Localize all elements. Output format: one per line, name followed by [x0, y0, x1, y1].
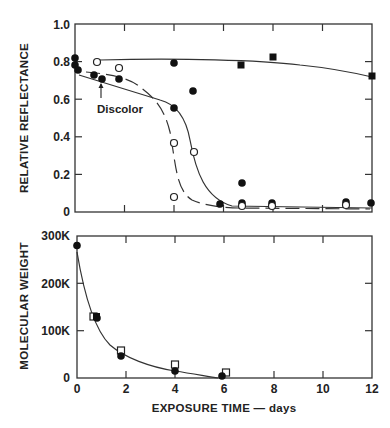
- xtick-12: 12: [365, 382, 379, 396]
- xtick-6: 6: [221, 382, 228, 396]
- filled-square-fit-curve: [100, 59, 372, 77]
- top-filled-square-markers: [238, 54, 376, 80]
- bottom-ytick-100k: 100K: [41, 324, 70, 338]
- top-plot-frame: [75, 24, 372, 212]
- bottom-filled-circle-markers: [73, 242, 226, 380]
- marker-filled-square: [270, 54, 277, 61]
- open-circle-fit-curve: [86, 72, 370, 209]
- top-ytick-0.2: 0.2: [53, 168, 70, 182]
- filled-circle-fit-curve: [79, 75, 372, 208]
- bottom-ytick-200k: 200K: [41, 277, 70, 291]
- top-ytick-0.6: 0.6: [53, 93, 70, 107]
- marker-filled-square: [238, 62, 245, 69]
- xtick-0: 0: [74, 382, 81, 396]
- x-axis-label: EXPOSURE TIME — days: [152, 402, 297, 414]
- bottom-y-tick-labels: 0 100K 200K 300K: [41, 229, 70, 385]
- xtick-8: 8: [271, 382, 278, 396]
- top-ytick-0: 0: [63, 205, 70, 219]
- bottom-y-axis-label: MOLECULAR WEIGHT: [18, 242, 30, 369]
- top-ytick-0.4: 0.4: [53, 130, 70, 144]
- top-y-axis-label: RELATIVE REFLECTANCE: [18, 43, 30, 193]
- bottom-ytick-0: 0: [63, 371, 70, 385]
- top-ytick-0.8: 0.8: [53, 55, 70, 69]
- arrow-up-icon: [99, 83, 104, 88]
- top-filled-circle-markers: [71, 54, 375, 208]
- top-plot: 0 0.2 0.4 0.6 0.8 1.0 RELATIVE REFLECTAN…: [18, 18, 376, 220]
- bottom-ytick-300k: 300K: [41, 229, 70, 243]
- top-ytick-1.0: 1.0: [53, 18, 70, 32]
- xtick-4: 4: [172, 382, 179, 396]
- xtick-2: 2: [123, 382, 130, 396]
- bottom-plot: 0 100K 200K 300K 0 2 4 6 8 10 12 EXPOSUR…: [18, 229, 379, 414]
- bottom-open-square-markers: [90, 313, 230, 376]
- top-x-ticks: [75, 24, 372, 212]
- discolor-label: Discolor: [97, 103, 144, 115]
- marker-filled-square: [369, 73, 376, 80]
- xtick-10: 10: [316, 382, 330, 396]
- x-tick-labels: 0 2 4 6 8 10 12: [74, 382, 379, 396]
- top-y-tick-labels: 0 0.2 0.4 0.6 0.8 1.0: [53, 18, 70, 220]
- figure: 0 0.2 0.4 0.6 0.8 1.0 RELATIVE REFLECTAN…: [0, 0, 390, 428]
